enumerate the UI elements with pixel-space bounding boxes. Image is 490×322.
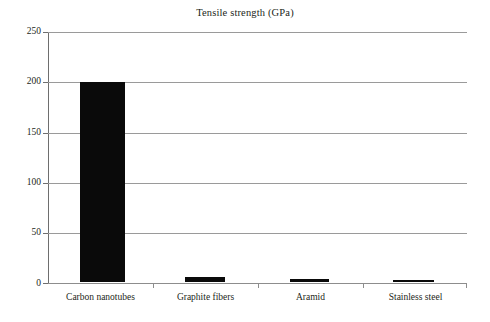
x-tick-mark xyxy=(363,283,364,288)
bar-stainless-steel xyxy=(393,280,434,282)
x-tick-mark xyxy=(466,283,467,288)
y-axis-labels: 250 200 150 100 50 0 xyxy=(0,0,41,322)
bar-chart: Tensile strength (GPa) 250 200 150 100 5… xyxy=(0,0,490,322)
y-tick-label: 50 xyxy=(3,228,41,238)
x-axis-label-carbon-nanotubes: Carbon nanotubes xyxy=(48,292,153,302)
bar-graphite-fibers xyxy=(185,277,225,282)
y-tick-label: 150 xyxy=(3,128,41,138)
y-tick-label: 250 xyxy=(3,27,41,37)
gridline-250 xyxy=(48,32,467,33)
x-axis-label-stainless-steel: Stainless steel xyxy=(363,292,468,302)
y-tick-label: 100 xyxy=(3,178,41,188)
bar-aramid xyxy=(290,279,329,282)
x-axis-label-graphite-fibers: Graphite fibers xyxy=(153,292,258,302)
y-tick-label: 0 xyxy=(3,279,41,289)
y-tick-label: 200 xyxy=(3,77,41,87)
x-tick-mark xyxy=(258,283,259,288)
x-axis-label-aramid: Aramid xyxy=(258,292,363,302)
plot-area xyxy=(48,32,467,283)
bar-carbon-nanotubes xyxy=(80,82,125,282)
chart-title: Tensile strength (GPa) xyxy=(0,7,490,18)
x-tick-mark xyxy=(153,283,154,288)
